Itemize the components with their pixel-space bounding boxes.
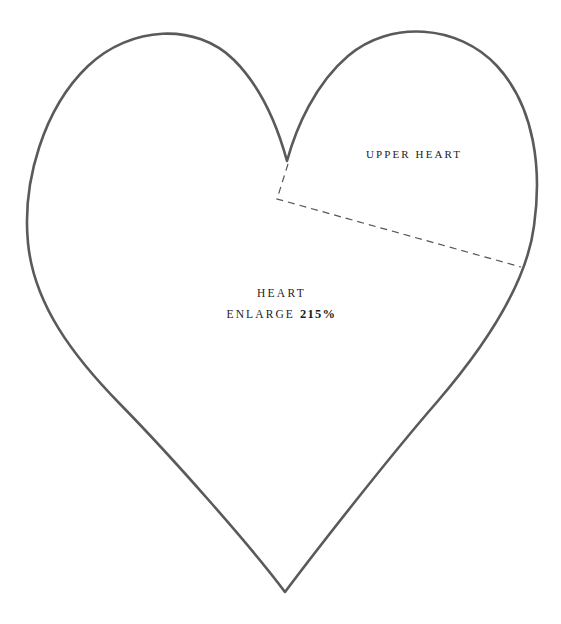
upper-heart-label: Upper Heart bbox=[366, 149, 462, 160]
enlarge-percentage-value: 215% bbox=[300, 307, 336, 321]
heart-enlarge-label: Enlarge 215% bbox=[0, 308, 561, 321]
heart-name-label: Heart bbox=[0, 288, 561, 300]
enlarge-prefix-text: Enlarge bbox=[227, 308, 295, 320]
heart-label-block: Heart Enlarge 215% bbox=[0, 288, 561, 320]
pattern-canvas: Upper Heart Heart Enlarge 215% bbox=[0, 0, 561, 624]
upper-heart-cut-line bbox=[277, 164, 521, 267]
